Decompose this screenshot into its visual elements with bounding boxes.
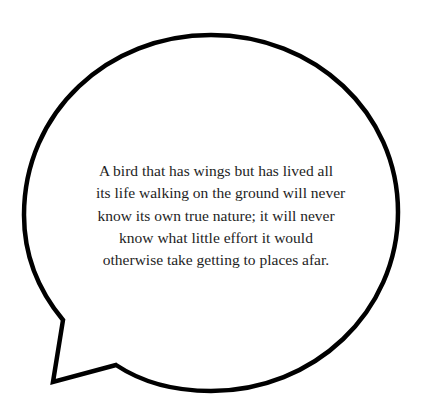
quote-line: its life walking on the ground will neve… (96, 182, 336, 204)
quote-line: A bird that has wings but has lived all (96, 160, 336, 182)
quote-line: know what little effort it would (96, 227, 336, 249)
quote-line: otherwise take getting to places afar. (96, 249, 336, 271)
speech-bubble-canvas: A bird that has wings but has lived all … (0, 0, 421, 416)
quote-text: A bird that has wings but has lived all … (96, 160, 336, 271)
quote-line: know its own true nature; it will never (96, 205, 336, 227)
